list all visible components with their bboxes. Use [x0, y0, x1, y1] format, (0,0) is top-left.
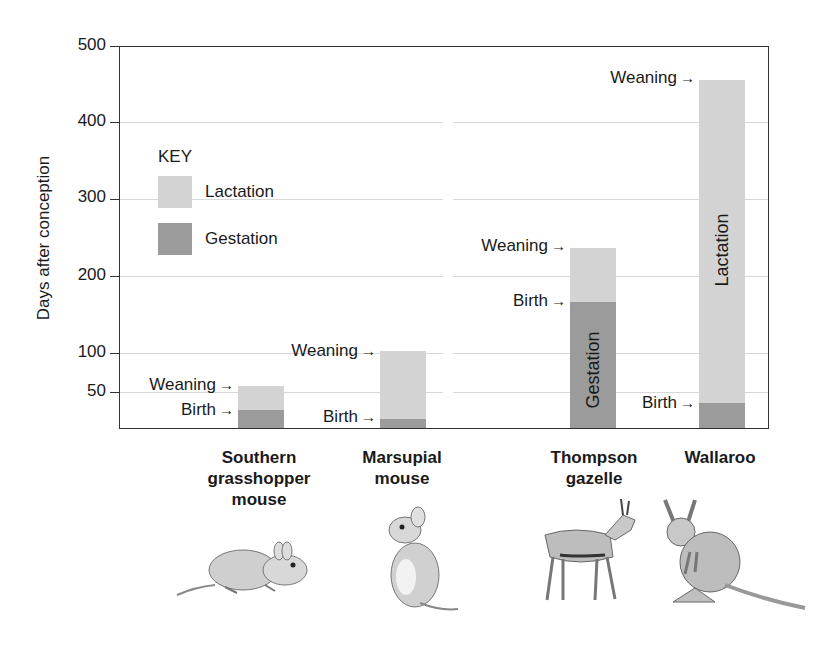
plot-frame: [119, 46, 769, 429]
y-axis-title: Days after conception: [34, 156, 54, 320]
y-tick: [110, 392, 119, 393]
y-tick: [110, 276, 119, 277]
category-label-wallaroo: Wallaroo: [684, 447, 755, 468]
y-tick-label: 100: [56, 342, 106, 362]
grasshopper-mouse-illustration: [175, 525, 315, 600]
y-tick: [110, 46, 119, 47]
y-tick-label: 300: [56, 187, 106, 207]
category-label-marsupial-mouse: Marsupialmouse: [362, 447, 441, 489]
y-tick: [110, 122, 119, 123]
category-label-southern-grasshopper-mouse: Southerngrasshoppermouse: [208, 447, 311, 510]
y-tick: [110, 353, 119, 354]
y-tick-label: 200: [56, 265, 106, 285]
category-label-thompson-gazelle: Thompsongazelle: [551, 447, 638, 489]
marsupial-mouse-illustration: [360, 505, 460, 615]
wallaroo-illustration: [655, 490, 810, 615]
y-tick-label: 400: [56, 111, 106, 131]
y-tick: [110, 199, 119, 200]
y-tick-label: 50: [56, 381, 106, 401]
y-tick-label: 500: [56, 35, 106, 55]
thompson-gazelle-illustration: [535, 495, 650, 610]
